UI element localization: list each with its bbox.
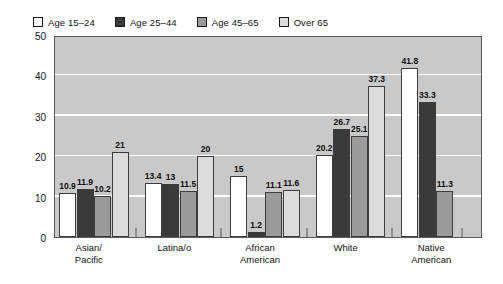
bar (351, 136, 368, 237)
bar-placeholder-sliver (461, 228, 463, 237)
bar-value-label: 15 (234, 164, 243, 174)
x-axis-category-line: White (333, 242, 357, 254)
bar-value-label: 37.3 (369, 74, 386, 84)
x-axis-category-label: NativeAmerican (411, 242, 451, 265)
x-axis-category-line: Pacific (75, 254, 103, 266)
bar (180, 191, 197, 237)
x-axis-category-label: AfricanAmerican (240, 242, 280, 265)
plot-area: 10.911.910.22113.41311.520151.211.111.62… (54, 36, 482, 238)
bar (436, 191, 453, 237)
bar (316, 155, 333, 237)
x-axis-category-label: White (333, 242, 357, 254)
bars-layer: 10.911.910.22113.41311.520151.211.111.62… (55, 37, 481, 237)
chart-legend: Age 15–24 Age 25–44 Age 45–65 Over 65 (33, 15, 348, 29)
y-axis-tick-label: 20 (6, 152, 46, 163)
bar-value-label: 11.1 (266, 180, 282, 190)
bar (145, 183, 162, 237)
bar-value-label: 33.3 (419, 90, 436, 100)
bar (162, 184, 179, 237)
bar (333, 129, 350, 237)
bar-value-label: 13 (166, 172, 175, 182)
bar (248, 232, 265, 237)
legend-swatch-age-25-44 (115, 17, 125, 27)
group-separator-tick (306, 228, 308, 237)
legend-item-age-45-65: Age 45–65 (197, 17, 259, 28)
bar-value-label: 11.6 (283, 178, 299, 188)
x-axis-category-label: Latina/o (157, 242, 191, 254)
bar (368, 86, 385, 237)
bar-value-label: 20 (201, 144, 210, 154)
bar-value-label: 41.8 (402, 56, 419, 66)
legend-label-age-45-65: Age 45–65 (212, 17, 259, 28)
x-axis-category-line: Latina/o (157, 242, 191, 254)
bar-value-label: 11.3 (437, 179, 453, 189)
x-axis-category-line: American (411, 254, 451, 266)
legend-label-over-65: Over 65 (294, 17, 329, 28)
group-separator-tick (220, 228, 222, 237)
bar (283, 190, 300, 237)
y-axis: 01020304050 (0, 0, 54, 284)
y-axis-tick-label: 30 (6, 111, 46, 122)
legend-label-age-25-44: Age 25–44 (130, 17, 177, 28)
bar (77, 189, 94, 237)
bar (94, 196, 111, 237)
bar (401, 68, 418, 237)
x-axis-category-line: American (240, 254, 280, 266)
bar-value-label: 20.2 (316, 143, 333, 153)
bar-value-label: 10.2 (94, 184, 111, 194)
bar-value-label: 1.2 (250, 220, 262, 230)
y-axis-tick-label: 0 (6, 233, 46, 244)
bar-value-label: 11.9 (77, 177, 93, 187)
x-axis-category-label: Asian/Pacific (75, 242, 103, 265)
bar-value-label: 26.7 (334, 117, 351, 127)
x-axis-category-line: Native (411, 242, 451, 254)
bar (59, 193, 76, 237)
bar (112, 152, 129, 237)
group-separator-tick (391, 228, 393, 237)
legend-swatch-age-45-65 (197, 17, 207, 27)
bar (197, 156, 214, 237)
legend-item-over-65: Over 65 (279, 17, 329, 28)
group-separator-tick (135, 228, 137, 237)
bar (265, 192, 282, 237)
bar-value-label: 11.5 (180, 179, 196, 189)
bar-value-label: 25.1 (351, 124, 368, 134)
bar-value-label: 21 (115, 140, 124, 150)
y-axis-tick-label: 10 (6, 192, 46, 203)
legend-swatch-over-65 (279, 17, 289, 27)
legend-item-age-25-44: Age 25–44 (115, 17, 177, 28)
x-axis-category-line: African (240, 242, 280, 254)
bar (419, 102, 436, 237)
legend-label-age-15-24: Age 15–24 (48, 17, 95, 28)
bar-value-label: 13.4 (145, 171, 162, 181)
y-axis-tick-label: 50 (6, 31, 46, 42)
bar (230, 176, 247, 237)
y-axis-tick-label: 40 (6, 71, 46, 82)
x-axis-category-line: Asian/ (75, 242, 103, 254)
bar-value-label: 10.9 (59, 181, 76, 191)
